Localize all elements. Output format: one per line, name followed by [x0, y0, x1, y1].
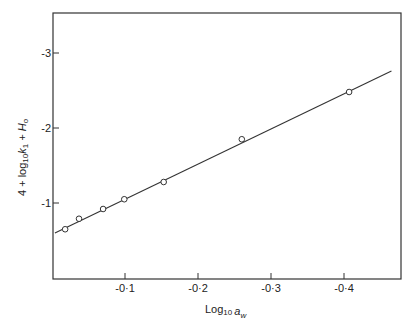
y-tick-label: -1: [41, 197, 51, 209]
y-tick-label: -3: [41, 47, 51, 59]
x-axis-title: Log10aw: [205, 303, 247, 320]
x-tick-label: -0·3: [261, 282, 281, 294]
data-point-circle: [121, 196, 127, 202]
x-axis-ticks: -0·1-0·2-0·3-0·4: [115, 273, 354, 294]
x-tick-label: -0·2: [188, 282, 208, 294]
data-point-circle: [239, 136, 245, 142]
y-axis-ticks: -1-2-3: [41, 47, 59, 209]
data-point-circle: [346, 89, 352, 95]
chart-canvas: -1-2-3 -0·1-0·2-0·3-0·4 Log10aw 4 + log1…: [0, 0, 413, 327]
x-tick-label: -0·4: [334, 282, 354, 294]
data-point-circle: [161, 179, 167, 185]
data-point-circle: [62, 226, 68, 232]
y-tick-label: -2: [41, 122, 51, 134]
y-axis-title: 4 + log10k1 + Ho: [16, 118, 30, 196]
plot-frame: [53, 13, 401, 279]
data-point-circle: [100, 206, 106, 212]
x-tick-label: -0·1: [115, 282, 135, 294]
data-point-circle: [76, 216, 82, 222]
